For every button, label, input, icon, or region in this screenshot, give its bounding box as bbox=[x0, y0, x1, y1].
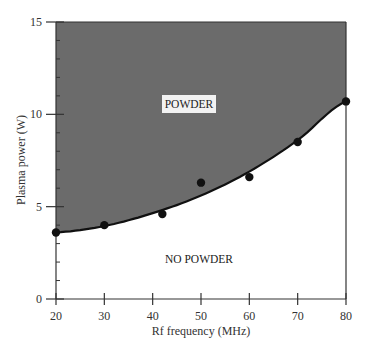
data-point bbox=[100, 221, 108, 229]
powder-region bbox=[56, 22, 346, 233]
x-tick-label: 60 bbox=[243, 309, 255, 323]
data-point bbox=[293, 138, 301, 146]
data-point bbox=[245, 173, 253, 181]
x-tick-label: 70 bbox=[292, 309, 304, 323]
x-tick-label: 50 bbox=[195, 309, 207, 323]
data-point bbox=[158, 210, 166, 218]
y-tick-label: 10 bbox=[30, 107, 42, 121]
data-point bbox=[52, 228, 60, 236]
no-powder-label: NO POWDER bbox=[165, 253, 233, 265]
x-axis-label: Rf frequency (MHz) bbox=[152, 324, 251, 338]
x-tick-label: 80 bbox=[340, 309, 352, 323]
x-tick-label: 30 bbox=[98, 309, 110, 323]
x-axis-ticks: 20304050607080 bbox=[50, 293, 352, 323]
y-tick-label: 0 bbox=[36, 292, 42, 306]
y-tick-label: 5 bbox=[36, 200, 42, 214]
data-point bbox=[342, 97, 350, 105]
data-point bbox=[197, 178, 205, 186]
y-tick-label: 15 bbox=[30, 15, 42, 29]
x-tick-label: 20 bbox=[50, 309, 62, 323]
chart: 051015 20304050607080 POWDER NO POWDER R… bbox=[0, 0, 366, 355]
powder-label: POWDER bbox=[165, 98, 214, 110]
x-tick-label: 40 bbox=[147, 309, 159, 323]
y-axis-label: Plasma power (W) bbox=[14, 115, 28, 205]
